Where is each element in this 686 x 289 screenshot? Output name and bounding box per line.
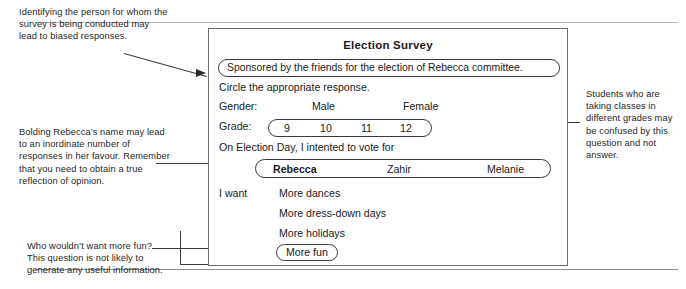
figure-canvas: Identifying the person for whom the surv… [0, 0, 686, 289]
gender-option-male[interactable]: Male [312, 100, 335, 112]
want-option-more-holidays[interactable]: More holidays [279, 227, 345, 239]
grade-option-11[interactable]: 11 [361, 122, 372, 134]
wants-label: I want [219, 187, 247, 199]
annotation-note-middle-left: Bolding Rebecca’s name may lead to an in… [19, 126, 171, 187]
grade-option-9[interactable]: 9 [284, 122, 290, 134]
candidate-option-zahir[interactable]: Zahir [387, 163, 411, 175]
vote-prompt-text: On Election Day, I intented to vote for [219, 141, 394, 153]
grade-options-circled: 9 10 11 12 [268, 119, 432, 137]
want-option-more-dances[interactable]: More dances [279, 187, 340, 199]
grade-label: Grade: [219, 120, 251, 132]
grade-option-10[interactable]: 10 [320, 122, 332, 134]
candidate-option-melanie[interactable]: Melanie [487, 163, 524, 175]
annotation-note-top-left: Identifying the person for whom the surv… [19, 6, 169, 43]
survey-title: Election Survey [209, 39, 567, 51]
sponsor-line-circled: Sponsored by the friends for the electio… [218, 59, 560, 77]
arrow-head-top-left-icon [196, 69, 206, 77]
candidate-option-rebecca[interactable]: Rebecca [273, 163, 317, 175]
connector-line-middle-left [156, 163, 210, 164]
want-option-more-dress-down-days[interactable]: More dress-down days [279, 207, 386, 219]
connector-elbow-vertical-bottom-left [180, 231, 181, 265]
annotation-note-right: Students who are taking classes in diffe… [586, 88, 678, 161]
grade-option-12[interactable]: 12 [400, 122, 412, 134]
annotation-note-bottom-left: Who wouldn’t want more fun? This questio… [27, 240, 170, 277]
gender-label: Gender: [219, 100, 257, 112]
candidate-options-circled: Rebecca Zahir Melanie [255, 159, 551, 178]
want-option-more-fun-circled[interactable]: More fun [276, 244, 338, 261]
survey-card: Election Survey Sponsored by the friends… [208, 28, 568, 266]
gender-option-female[interactable]: Female [403, 100, 438, 112]
connector-line-top-left [124, 53, 207, 77]
instruction-text: Circle the appropriate response. [219, 81, 370, 93]
